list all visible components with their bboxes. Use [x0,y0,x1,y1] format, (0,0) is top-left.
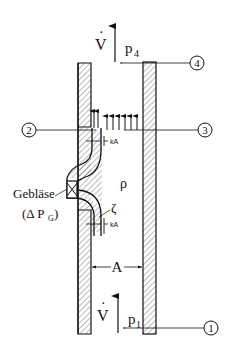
pressure-top-sub: 4 [134,48,139,59]
pressure-top-base: p [125,40,133,56]
station-4-label: 4 [194,57,200,69]
station-1-label: 1 [208,322,214,334]
nozzle-area-top-label: kA [110,138,119,145]
uniform-flow-arrows [107,116,137,130]
jet-outlet-arrows [94,111,98,128]
flow-rate-top-dot: · [99,25,104,40]
fan-name: Gebläse [13,186,55,201]
fan-label: Gebläse (Δ P G ) [13,186,67,223]
fan-pressure-close: ) [54,206,58,221]
shaft-area-dimension: A [92,259,142,275]
pressure-bottom-base: p [128,311,136,327]
density-label: ρ [120,176,127,191]
station-2-label: 2 [26,124,32,136]
station-4: 4 [120,56,204,70]
nozzle-area-bottom-label: kA [110,221,119,228]
fan-icon [67,181,77,198]
loss-coefficient-label: ζ [111,200,117,215]
shaft-area-label: A [112,259,123,275]
right-shaft-wall [143,62,156,334]
flow-rate-bottom-dot: · [101,296,106,311]
diagram-canvas: V · p 4 4 2 3 kA ρ ζ kA [0,0,233,361]
bottom-flow-indicator: V · p 1 [97,296,141,333]
fan-pressure-open: (Δ P [22,206,44,221]
jet-fan-shaft-diagram: V · p 4 4 2 3 kA ρ ζ kA [0,0,233,361]
top-flow-indicator: V · p 4 [95,25,139,62]
station-3-label: 3 [202,124,208,136]
